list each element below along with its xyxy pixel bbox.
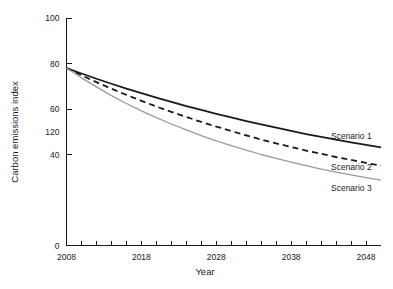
carbon-emissions-chart: 0401206080100 20082018202820382048 Scena… bbox=[0, 0, 393, 289]
y-axis-title: Carbon emissions index bbox=[9, 81, 20, 183]
series-label-1: Scenario 1 bbox=[331, 131, 372, 141]
y-tick-label: 100 bbox=[45, 13, 59, 23]
y-tick-label: 40 bbox=[50, 150, 60, 160]
x-tick-label: 2018 bbox=[132, 252, 151, 262]
x-tick-label: 2038 bbox=[282, 252, 301, 262]
y-axis-tick-labels: 0401206080100 bbox=[45, 13, 59, 251]
x-tick-label: 2048 bbox=[357, 252, 376, 262]
y-tick-label: 80 bbox=[50, 59, 60, 69]
y-tick-label: 120 bbox=[45, 127, 59, 137]
series-label-3: Scenario 3 bbox=[331, 183, 372, 193]
x-axis-title: Year bbox=[195, 266, 214, 277]
y-axis-ticks bbox=[67, 18, 72, 246]
y-tick-label: 60 bbox=[50, 104, 60, 114]
x-tick-label: 2008 bbox=[57, 252, 76, 262]
series-line-2 bbox=[67, 68, 382, 166]
x-axis-tick-labels: 20082018202820382048 bbox=[57, 252, 376, 262]
chart-canvas: 0401206080100 20082018202820382048 Scena… bbox=[0, 0, 393, 289]
y-tick-label: 0 bbox=[55, 241, 60, 251]
series-annotation-group: Scenario 1Scenario 2Scenario 3 bbox=[331, 131, 372, 193]
series-label-2: Scenario 2 bbox=[331, 162, 372, 172]
x-tick-label: 2028 bbox=[207, 252, 226, 262]
